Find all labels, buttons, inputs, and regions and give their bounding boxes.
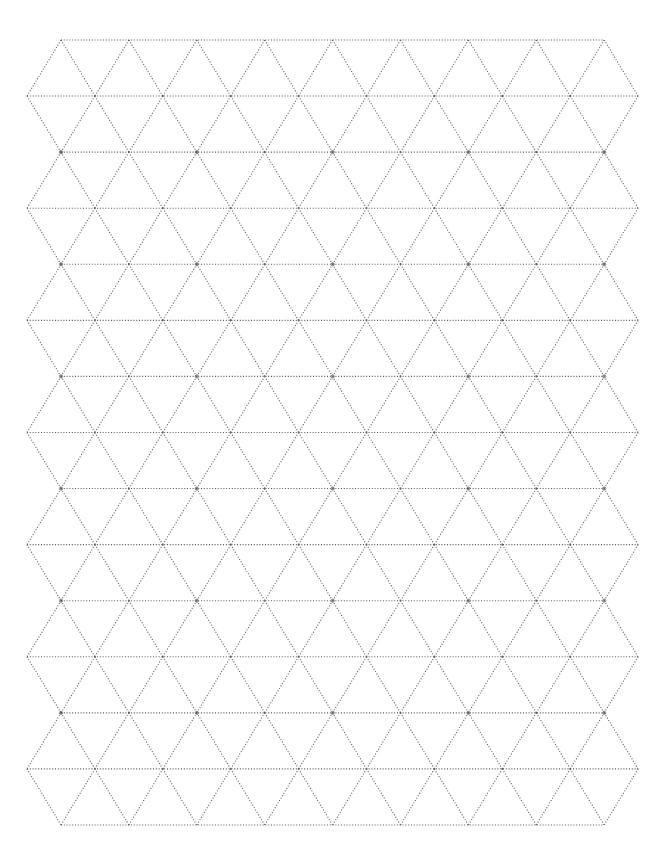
grid-diagonal-line [536,40,570,96]
grid-diagonal-line [61,657,95,713]
grid-diagonal-line [163,208,197,264]
grid-diagonal-line [367,769,401,825]
grid-diagonal-line [27,96,61,152]
grid-diagonal-line [367,489,401,545]
grid-diagonal-line [434,713,468,769]
grid-diagonal-line [333,152,367,208]
grid-diagonal-line [604,713,638,769]
grid-diagonal-line [536,432,570,488]
grid-diagonal-line [570,657,604,713]
grid-diagonal-line [468,489,502,545]
grid-diagonal-line [299,320,333,376]
grid-diagonal-line [163,432,197,488]
grid-diagonal-line [468,769,502,825]
grid-diagonal-line [265,432,299,488]
grid-diagonal-line [61,489,95,545]
grid-diagonal-line [333,264,367,320]
grid-diagonal-line [401,545,435,601]
grid-diagonal-line [333,320,367,376]
grid-diagonal-line [299,432,333,488]
grid-diagonal-line [570,40,604,96]
grid-diagonal-line [95,152,129,208]
grid-lines [27,40,638,825]
grid-diagonal-line [231,264,265,320]
grid-diagonal-line [502,40,536,96]
grid-diagonal-line [570,152,604,208]
grid-diagonal-line [333,657,367,713]
grid-diagonal-line [265,320,299,376]
grid-diagonal-line [163,152,197,208]
grid-diagonal-line [434,769,468,825]
grid-diagonal-line [367,713,401,769]
grid-diagonal-line [434,152,468,208]
grid-diagonal-line [367,376,401,432]
grid-diagonal-line [61,208,95,264]
grid-diagonal-line [129,489,163,545]
grid-diagonal-line [570,601,604,657]
grid-diagonal-line [502,264,536,320]
grid-diagonal-line [434,489,468,545]
grid-diagonal-line [231,376,265,432]
grid-diagonal-line [502,208,536,264]
grid-diagonal-line [434,40,468,96]
grid-diagonal-line [401,432,435,488]
grid-diagonal-line [401,657,435,713]
grid-diagonal-line [95,545,129,601]
grid-diagonal-line [367,432,401,488]
grid-diagonal-line [27,657,61,713]
grid-diagonal-line [197,320,231,376]
grid-diagonal-line [570,376,604,432]
grid-diagonal-line [434,208,468,264]
grid-diagonal-line [265,545,299,601]
grid-diagonal-line [197,489,231,545]
grid-diagonal-line [61,96,95,152]
grid-diagonal-line [367,320,401,376]
grid-diagonal-line [468,208,502,264]
grid-diagonal-line [502,657,536,713]
grid-diagonal-line [333,432,367,488]
grid-diagonal-line [27,152,61,208]
grid-diagonal-line [536,264,570,320]
grid-diagonal-line [604,264,638,320]
grid-diagonal-line [367,96,401,152]
grid-diagonal-line [604,40,638,96]
grid-diagonal-line [367,208,401,264]
grid-diagonal-line [231,713,265,769]
grid-diagonal-line [434,545,468,601]
grid-diagonal-line [333,376,367,432]
grid-diagonal-line [570,489,604,545]
grid-diagonal-line [604,489,638,545]
grid-diagonal-line [231,40,265,96]
grid-diagonal-line [231,208,265,264]
grid-diagonal-line [536,489,570,545]
grid-diagonal-line [129,713,163,769]
grid-diagonal-line [333,713,367,769]
grid-diagonal-line [604,601,638,657]
grid-diagonal-line [299,601,333,657]
grid-diagonal-line [163,545,197,601]
grid-diagonal-line [163,40,197,96]
grid-diagonal-line [27,432,61,488]
grid-diagonal-line [95,40,129,96]
grid-diagonal-line [502,713,536,769]
grid-diagonal-line [434,96,468,152]
grid-diagonal-line [502,376,536,432]
grid-diagonal-line [468,152,502,208]
grid-diagonal-line [95,320,129,376]
grid-diagonal-line [129,657,163,713]
grid-diagonal-line [468,264,502,320]
grid-diagonal-line [299,40,333,96]
grid-diagonal-line [231,96,265,152]
grid-diagonal-line [367,152,401,208]
grid-diagonal-line [468,376,502,432]
grid-diagonal-line [197,40,231,96]
grid-diagonal-line [95,769,129,825]
grid-diagonal-line [163,769,197,825]
grid-diagonal-line [265,96,299,152]
grid-diagonal-line [434,601,468,657]
grid-diagonal-line [61,376,95,432]
grid-diagonal-line [299,264,333,320]
grid-diagonal-line [604,769,638,825]
grid-diagonal-line [502,545,536,601]
grid-diagonal-line [197,152,231,208]
